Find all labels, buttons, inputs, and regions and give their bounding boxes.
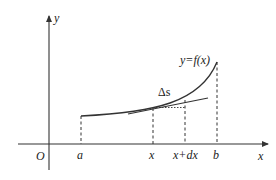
tick-label-b: b	[213, 148, 219, 162]
curve-f	[81, 62, 217, 116]
tick-label-x: x	[148, 148, 155, 162]
y-axis-label: y	[53, 11, 60, 25]
origin-label: O	[36, 149, 45, 163]
tangent-line	[128, 98, 208, 114]
arc-length-label: Δs	[158, 85, 171, 99]
tick-label-x-dx: x+dx	[172, 148, 198, 162]
tick-label-a: a	[77, 148, 83, 162]
x-axis-label: x	[257, 149, 264, 163]
arc-length-diagram: y x O a x x+dx b y=f(x) Δs	[0, 0, 276, 180]
curve-label: y=f(x)	[179, 53, 210, 67]
